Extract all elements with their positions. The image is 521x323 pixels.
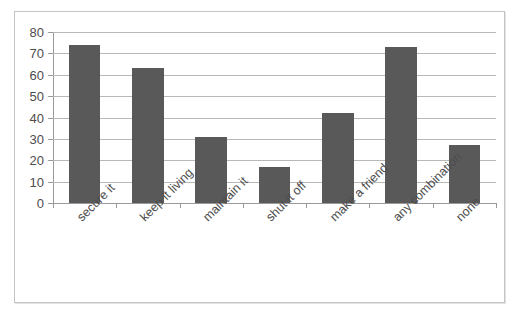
y-axis-tick-label: 70 [30, 47, 44, 60]
bar [69, 45, 101, 203]
y-axis-tick-label: 30 [30, 132, 44, 145]
y-axis-tick-label: 50 [30, 90, 44, 103]
x-axis-tick [496, 203, 497, 208]
y-axis-tick-label: 10 [30, 175, 44, 188]
y-axis-tick-label: 40 [30, 111, 44, 124]
x-axis-tick-labels: secure itkeep it livingmaintain itshut i… [53, 203, 496, 303]
y-axis-tick-label: 80 [30, 26, 44, 39]
bar [322, 113, 354, 203]
bar [385, 47, 417, 203]
y-axis-tick-label: 0 [37, 197, 44, 210]
bar [132, 68, 164, 203]
y-axis-tick-label: 20 [30, 154, 44, 167]
y-axis-tick-label: 60 [30, 68, 44, 81]
chart-frame: 01020304050607080 secure itkeep it livin… [14, 11, 505, 303]
